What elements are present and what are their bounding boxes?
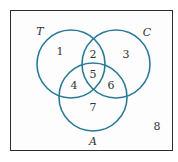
- set-label-t: T: [36, 26, 43, 37]
- region-label-6: 6: [108, 80, 115, 91]
- region-label-7: 7: [90, 102, 97, 113]
- set-label-c: C: [143, 27, 151, 38]
- region-label-4: 4: [71, 80, 78, 91]
- region-label-2: 2: [90, 49, 97, 60]
- region-label-5: 5: [90, 69, 97, 80]
- set-label-a: A: [89, 136, 97, 147]
- region-label-1: 1: [57, 46, 64, 57]
- set-circle-c: [82, 30, 150, 98]
- region-label-8: 8: [154, 121, 161, 132]
- region-label-3: 3: [123, 49, 130, 60]
